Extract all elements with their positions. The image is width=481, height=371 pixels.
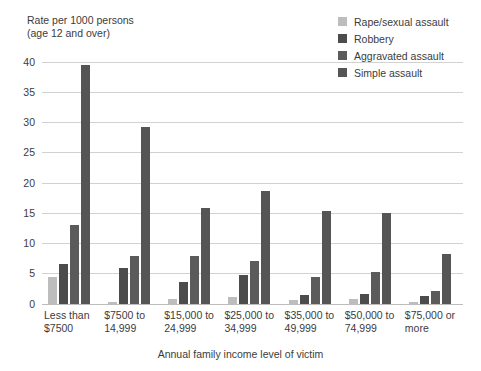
legend-item-rape-sexual-assault[interactable]: Rape/sexual assault xyxy=(338,14,478,29)
bar[interactable] xyxy=(360,294,369,304)
x-axis-tick-label: $75,000 or more xyxy=(403,309,463,335)
bar-group xyxy=(222,62,282,304)
y-axis-title: Rate per 1000 persons (age 12 and over) xyxy=(27,14,134,40)
y-axis-tick-label: 20 xyxy=(23,177,35,189)
bar[interactable] xyxy=(349,299,358,304)
bar-groups xyxy=(42,62,463,304)
plot-area: 0510152025303540 xyxy=(42,62,463,304)
x-axis-tick-label: $7500 to 14,999 xyxy=(102,309,162,335)
y-axis-tick-label: 0 xyxy=(29,298,35,310)
bar[interactable] xyxy=(119,268,128,304)
bar[interactable] xyxy=(442,254,451,304)
bar[interactable] xyxy=(59,264,68,304)
bar[interactable] xyxy=(431,291,440,304)
bar[interactable] xyxy=(371,272,380,304)
bar-group xyxy=(102,62,162,304)
legend-swatch-icon xyxy=(338,34,347,43)
y-axis-tick-label: 5 xyxy=(29,267,35,279)
bar[interactable] xyxy=(179,282,188,304)
bar[interactable] xyxy=(322,211,331,304)
x-axis-tick-labels: Less than $7500$7500 to 14,999$15,000 to… xyxy=(42,309,463,335)
y-axis-tick-label: 35 xyxy=(23,86,35,98)
bar[interactable] xyxy=(190,256,199,304)
y-axis-tick-label: 15 xyxy=(23,207,35,219)
bar-chart: Rate per 1000 persons (age 12 and over) … xyxy=(0,0,481,371)
legend-swatch-icon xyxy=(338,17,347,26)
legend-item-label: Robbery xyxy=(354,33,394,45)
legend-item-robbery[interactable]: Robbery xyxy=(338,31,478,46)
bar[interactable] xyxy=(409,302,418,304)
bar[interactable] xyxy=(261,191,270,304)
bar-group xyxy=(283,62,343,304)
bar[interactable] xyxy=(168,299,177,304)
y-axis-tick-label: 10 xyxy=(23,237,35,249)
bar[interactable] xyxy=(300,295,309,304)
bar[interactable] xyxy=(108,302,117,304)
bar[interactable] xyxy=(141,127,150,304)
x-axis-tick-label: $50,000 to 74,999 xyxy=(343,309,403,335)
bar-group xyxy=(162,62,222,304)
x-axis-tick-label: $25,000 to 34,999 xyxy=(222,309,282,335)
y-axis-tick-label: 40 xyxy=(23,56,35,68)
bar[interactable] xyxy=(201,208,210,304)
bar[interactable] xyxy=(250,261,259,304)
legend-item-label: Rape/sexual assault xyxy=(354,16,449,28)
bar[interactable] xyxy=(228,297,237,304)
x-axis-tick-label: Less than $7500 xyxy=(42,309,102,335)
bar-group xyxy=(343,62,403,304)
bar[interactable] xyxy=(239,275,248,304)
bar-group xyxy=(42,62,102,304)
legend-item-label: Aggravated assault xyxy=(354,50,444,62)
bar[interactable] xyxy=(311,277,320,304)
bar[interactable] xyxy=(130,256,139,304)
legend-swatch-icon xyxy=(338,51,347,60)
bar[interactable] xyxy=(420,296,429,304)
bar-group xyxy=(403,62,463,304)
x-axis-tick-label: $35,000 to 49,999 xyxy=(283,309,343,335)
bar[interactable] xyxy=(382,213,391,304)
y-axis-tick-label: 30 xyxy=(23,116,35,128)
bar[interactable] xyxy=(70,225,79,304)
bar[interactable] xyxy=(81,65,90,304)
x-axis-tick-label: $15,000 to 24,999 xyxy=(162,309,222,335)
bar[interactable] xyxy=(48,277,57,304)
bar[interactable] xyxy=(289,300,298,304)
y-axis-tick-label: 25 xyxy=(23,146,35,158)
x-axis-title: Annual family income level of victim xyxy=(0,348,481,360)
